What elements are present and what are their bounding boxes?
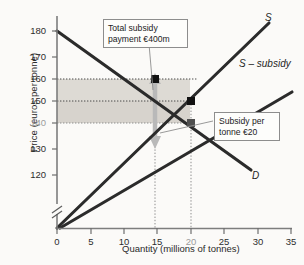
x-tick-5: 5 bbox=[81, 236, 101, 247]
callout-total-subsidy: Total subsidy payment €400m bbox=[103, 19, 188, 48]
chart-screenshot: Price (euros per tonne) Quantity (millio… bbox=[0, 0, 304, 265]
y-tick-170: 170 bbox=[20, 51, 46, 62]
x-tick-35: 35 bbox=[281, 236, 301, 247]
y-tick-120: 120 bbox=[20, 169, 46, 180]
x-tick-15: 15 bbox=[147, 236, 167, 247]
new-equilibrium-marker bbox=[187, 97, 195, 105]
y-tick-160: 160 bbox=[20, 73, 46, 84]
x-tick-10: 10 bbox=[114, 236, 134, 247]
demand-curve-label: D bbox=[252, 170, 259, 181]
x-tick-0: 0 bbox=[47, 236, 67, 247]
supply-subsidy-curve-label: S – subsidy bbox=[239, 58, 291, 69]
y-tick-180: 180 bbox=[20, 25, 46, 36]
supply-curve-label: S bbox=[265, 12, 272, 23]
x-tick-30: 30 bbox=[248, 236, 268, 247]
y-tick-150: 150 bbox=[20, 95, 46, 106]
y-tick-130: 130 bbox=[20, 143, 46, 154]
x-tick-25: 25 bbox=[214, 236, 234, 247]
callout-subsidy-per-tonne: Subsidy per tonne €20 bbox=[214, 112, 280, 141]
x-tick-20: 20 bbox=[181, 236, 201, 247]
y-tick-140: 140 bbox=[20, 117, 46, 128]
